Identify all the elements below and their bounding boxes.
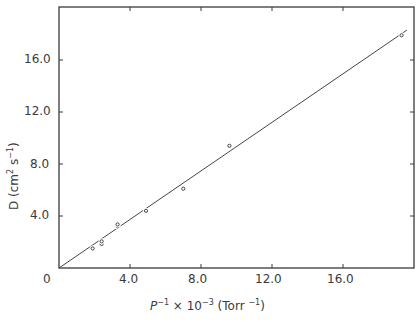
fit-line bbox=[59, 30, 407, 268]
x-origin-label: 0 bbox=[43, 272, 51, 286]
y-tick-label: 16.0 bbox=[24, 52, 51, 66]
y-tick-label: 4.0 bbox=[30, 208, 49, 222]
axis-ticks bbox=[59, 7, 414, 268]
y-tick-label: 12.0 bbox=[24, 104, 51, 118]
x-axis-label: P−1 × 10−3 (Torr −1) bbox=[150, 298, 265, 313]
x-tick-label: 16.0 bbox=[327, 272, 354, 286]
x-tick-label: 12.0 bbox=[255, 272, 282, 286]
y-tick-label: 8.0 bbox=[30, 157, 49, 171]
plot-frame bbox=[59, 7, 414, 268]
data-points bbox=[90, 32, 405, 251]
x-tick-label: 4.0 bbox=[119, 272, 138, 286]
y-axis-label: D (cm2 s−1) bbox=[6, 142, 21, 210]
x-tick-label: 8.0 bbox=[188, 272, 207, 286]
